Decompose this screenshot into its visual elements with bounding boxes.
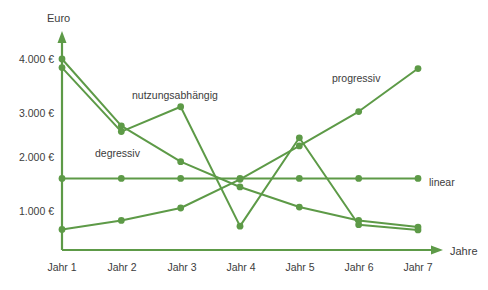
- data-point[interactable]: [415, 65, 422, 72]
- y-axis-tick-labels: 4.000 € 3.000 € 2.000 € 1.000 €: [19, 53, 54, 217]
- y-tick-label: 3.000 €: [19, 107, 54, 119]
- x-axis-tick-labels: Jahr 1 Jahr 2 Jahr 3 Jahr 4 Jahr 5 Jahr …: [47, 261, 432, 273]
- data-point[interactable]: [118, 128, 125, 135]
- x-tick-label: Jahr 4: [226, 261, 255, 273]
- series-label-progressiv: progressiv: [332, 72, 381, 84]
- data-point[interactable]: [296, 143, 303, 150]
- series-line-degressiv: [62, 59, 418, 227]
- x-tick-label: Jahr 2: [107, 261, 136, 273]
- y-tick-label: 4.000 €: [19, 53, 54, 65]
- data-point[interactable]: [296, 134, 303, 141]
- y-axis-arrow-icon: [58, 31, 67, 43]
- data-point[interactable]: [59, 56, 66, 63]
- data-point[interactable]: [355, 108, 362, 115]
- x-tick-label: Jahr 3: [167, 261, 196, 273]
- series-label-nutzungsabhaengig: nutzungsabhängig: [132, 89, 218, 101]
- data-point[interactable]: [177, 175, 184, 182]
- series-label-degressiv: degressiv: [95, 147, 141, 159]
- series-label-linear: linear: [429, 176, 455, 188]
- data-point[interactable]: [296, 175, 303, 182]
- y-axis-title: Euro: [47, 12, 70, 24]
- data-point[interactable]: [296, 204, 303, 211]
- data-point[interactable]: [237, 176, 244, 183]
- data-point[interactable]: [118, 217, 125, 224]
- data-point[interactable]: [177, 205, 184, 212]
- data-point[interactable]: [59, 226, 66, 233]
- x-axis-arrow-icon: [431, 246, 443, 255]
- data-point[interactable]: [59, 175, 66, 182]
- x-tick-label: Jahr 6: [344, 261, 373, 273]
- data-point[interactable]: [118, 175, 125, 182]
- y-tick-label: 2.000 €: [19, 151, 54, 163]
- data-point[interactable]: [177, 103, 184, 110]
- data-point[interactable]: [415, 227, 422, 234]
- data-point[interactable]: [355, 221, 362, 228]
- x-tick-label: Jahr 1: [47, 261, 76, 273]
- y-tick-label: 1.000 €: [19, 205, 54, 217]
- data-point[interactable]: [415, 175, 422, 182]
- data-point[interactable]: [355, 175, 362, 182]
- line-chart: 4.000 € 3.000 € 2.000 € 1.000 € Jahr 1 J…: [0, 0, 488, 290]
- chart-canvas: 4.000 € 3.000 € 2.000 € 1.000 € Jahr 1 J…: [0, 0, 488, 290]
- data-point[interactable]: [237, 184, 244, 191]
- x-tick-label: Jahr 5: [285, 261, 314, 273]
- data-point[interactable]: [59, 64, 66, 71]
- data-point[interactable]: [237, 223, 244, 230]
- x-tick-label: Jahr 7: [403, 261, 432, 273]
- data-point[interactable]: [177, 158, 184, 165]
- x-axis-title: Jahre: [450, 245, 478, 257]
